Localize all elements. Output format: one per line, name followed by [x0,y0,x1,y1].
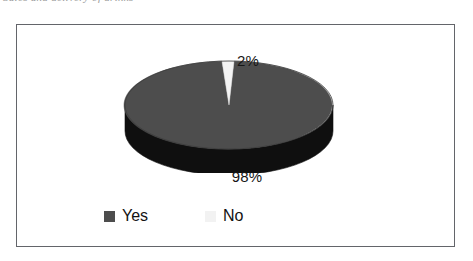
legend-swatch-icon-yes [104,211,115,222]
chart-legend: Yes No [17,205,456,231]
pie-data-label-no: 2% [213,52,283,69]
legend-label-no: No [223,208,243,224]
legend-label-yes: Yes [122,208,148,224]
pie-data-label-yes: 98% [207,168,287,185]
legend-swatch-icon-no [205,211,216,222]
legend-item-yes[interactable]: Yes [104,206,148,226]
pie-chart-graphic [123,53,335,173]
figure-caption: Sales and delivery of drinks [0,0,473,7]
chart-frame: 2% 98% Yes No [16,24,455,247]
figure-caption-text: Sales and delivery of drinks [3,0,134,3]
legend-item-no[interactable]: No [205,206,243,226]
pie-plot-area: 2% 98% [17,25,456,195]
